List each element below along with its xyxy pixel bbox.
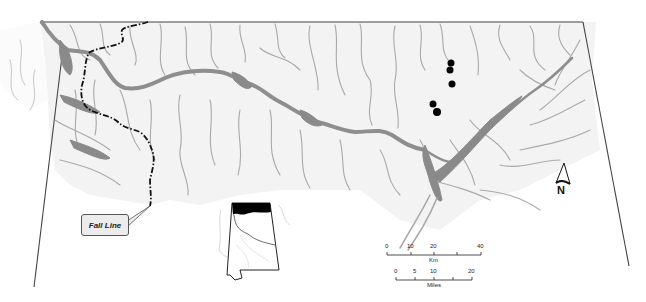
site-marker <box>433 108 441 116</box>
scale-miles-tick-0: 0 <box>394 268 397 274</box>
fall-line-label: Fall Line <box>81 214 129 236</box>
scale-miles-tick-10: 10 <box>430 268 437 274</box>
scale-km-tick-0: 0 <box>385 243 388 249</box>
scale-miles-tick-20: 20 <box>468 268 475 274</box>
scale-km-tick-10: 10 <box>407 243 414 249</box>
map-canvas <box>0 0 646 302</box>
fall-line-leader <box>127 206 150 227</box>
site-marker <box>430 101 437 108</box>
scale-km-tick-40: 40 <box>477 243 484 249</box>
inset-state-map <box>219 203 290 280</box>
site-marker <box>449 81 456 88</box>
site-marker <box>447 67 454 74</box>
scale-miles-unit: Miles <box>427 282 441 288</box>
scale-km-tick-20: 20 <box>430 243 437 249</box>
north-label: N <box>557 184 565 196</box>
site-marker <box>448 60 455 67</box>
scale-miles-tick-5: 5 <box>413 268 416 274</box>
scale-km-unit: Km <box>429 257 438 263</box>
